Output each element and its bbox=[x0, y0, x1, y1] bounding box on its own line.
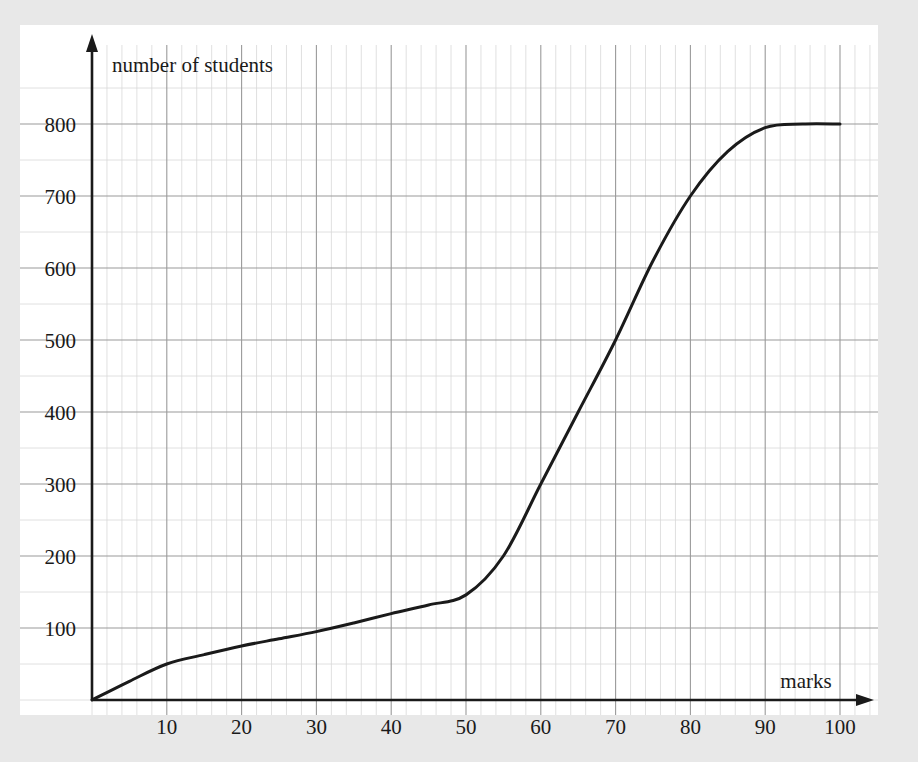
y-axis-tick-labels: 100200300400500600700800 bbox=[45, 113, 77, 641]
y-tick-label: 800 bbox=[45, 113, 77, 137]
x-tick-label: 70 bbox=[605, 715, 626, 739]
y-tick-label: 400 bbox=[45, 401, 77, 425]
y-axis-title: number of students bbox=[112, 53, 273, 77]
x-tick-label: 100 bbox=[824, 715, 856, 739]
chart-svg: 100200300400500600700800 102030405060708… bbox=[0, 0, 918, 762]
major-gridlines-vertical bbox=[167, 45, 840, 715]
y-axis-line bbox=[86, 34, 98, 700]
minor-gridlines-vertical bbox=[92, 45, 870, 715]
y-tick-label: 200 bbox=[45, 545, 77, 569]
y-tick-label: 600 bbox=[45, 257, 77, 281]
y-tick-label: 300 bbox=[45, 473, 77, 497]
minor-gridlines-horizontal bbox=[20, 88, 878, 700]
x-tick-label: 40 bbox=[381, 715, 402, 739]
x-tick-label: 30 bbox=[306, 715, 327, 739]
x-tick-label: 10 bbox=[156, 715, 177, 739]
y-tick-label: 700 bbox=[45, 185, 77, 209]
y-tick-label: 500 bbox=[45, 329, 77, 353]
cumulative-frequency-chart: 100200300400500600700800 102030405060708… bbox=[0, 0, 918, 762]
x-tick-label: 90 bbox=[755, 715, 776, 739]
x-tick-label: 20 bbox=[231, 715, 252, 739]
x-axis-tick-labels: 102030405060708090100 bbox=[156, 715, 855, 739]
x-tick-label: 60 bbox=[530, 715, 551, 739]
x-tick-label: 50 bbox=[456, 715, 477, 739]
x-axis-line bbox=[92, 694, 874, 706]
y-tick-label: 100 bbox=[45, 617, 77, 641]
x-tick-label: 80 bbox=[680, 715, 701, 739]
x-axis-title: marks bbox=[780, 669, 831, 693]
